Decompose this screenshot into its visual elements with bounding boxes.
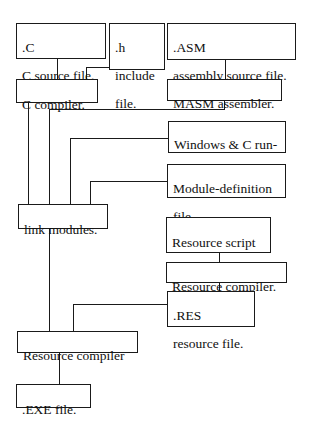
node-label: MASM assembler.	[173, 97, 281, 111]
node-resource-compiler-2: Resource compiler	[17, 331, 138, 353]
node-label: .EXE file.	[22, 403, 90, 417]
node-label: link modules.	[24, 223, 107, 237]
connector-res-horizontal	[73, 304, 167, 305]
node-res-resource-file: .RES resource file.	[167, 291, 255, 327]
node-exe-file: .EXE file.	[16, 384, 91, 408]
connector-moddef-to-link	[90, 181, 91, 204]
node-label: file.	[115, 97, 164, 111]
node-c-compiler: C compiler.	[16, 79, 98, 103]
connector-res-to-rc2	[73, 304, 74, 331]
node-label: include	[115, 69, 164, 83]
node-label: Module-definition	[173, 182, 285, 196]
node-resource-compiler-1: Resource compiler.	[166, 262, 287, 283]
node-label: resource file.	[173, 337, 254, 351]
node-label: C compiler.	[22, 98, 97, 112]
node-label: Windows & C run-	[174, 138, 285, 152]
connector-runtime-to-link	[70, 138, 71, 204]
node-label: Resource compiler	[23, 349, 137, 363]
node-resource-script-files: Resource script files.	[166, 217, 271, 253]
node-label: .RES	[173, 309, 254, 323]
node-label: .ASM	[173, 41, 295, 55]
node-module-definition-file: Module-definition file.	[167, 164, 286, 198]
connector-runtime-horizontal	[70, 138, 168, 139]
node-label: .C	[22, 41, 105, 55]
node-label: Resource script	[172, 236, 270, 250]
node-c-source-file: .C C source file.	[16, 23, 106, 59]
connector-moddef-horizontal	[90, 181, 167, 182]
node-runtime-libraries: Windows & C run- time libraries.	[168, 121, 286, 153]
node-h-include-file: .h include file.	[109, 23, 165, 70]
node-link-modules: link modules.	[18, 204, 108, 229]
node-label: .h	[115, 41, 164, 55]
node-asm-source-file: .ASM assembly source file.	[167, 23, 296, 60]
node-masm-assembler: MASM assembler.	[167, 79, 282, 101]
